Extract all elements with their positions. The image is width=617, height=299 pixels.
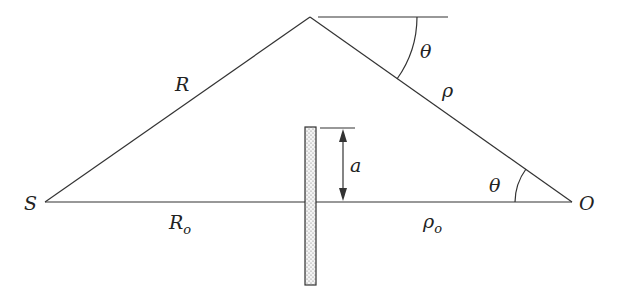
label-theta-bottom: θ xyxy=(489,174,501,196)
label-rho-o: ρo xyxy=(422,210,442,236)
angle-arc-top xyxy=(397,17,417,79)
label-S: S xyxy=(24,192,37,214)
barrier-screen xyxy=(305,127,316,285)
angle-arc-bottom xyxy=(515,169,526,202)
label-R-o: Ro xyxy=(168,211,191,237)
label-theta-top: θ xyxy=(420,40,432,62)
arrowhead-up-icon xyxy=(339,129,347,142)
label-R: R xyxy=(174,73,189,95)
line-R xyxy=(45,17,310,202)
label-O: O xyxy=(579,192,595,214)
label-rho: ρ xyxy=(441,79,454,101)
arrowhead-down-icon xyxy=(339,188,347,201)
label-a: a xyxy=(350,154,361,176)
diffraction-geometry-diagram: R ρ θ θ a S O Ro ρo xyxy=(0,0,617,299)
